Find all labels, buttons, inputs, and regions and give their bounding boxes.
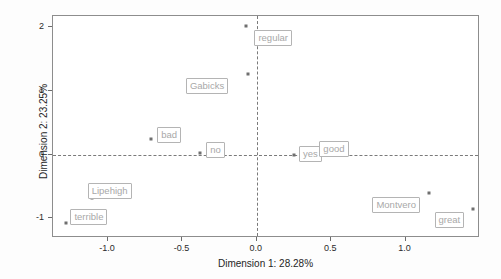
point-label: no	[206, 142, 225, 158]
scatter-plot-figure: regularGabicksbadnoyesgoodLipehighterrib…	[0, 0, 501, 279]
point-label: terrible	[70, 209, 107, 225]
y-tick-label: 2	[39, 21, 44, 31]
data-point	[428, 191, 431, 194]
point-label: bad	[157, 127, 181, 143]
point-label: Lipehigh	[88, 183, 132, 199]
x-tick-mark	[330, 237, 331, 241]
x-tick-label: 1.0	[398, 243, 411, 253]
data-point	[150, 137, 153, 140]
y-tick-mark	[48, 26, 52, 27]
y-tick-mark	[48, 90, 52, 91]
reference-line-vertical	[257, 16, 258, 236]
x-tick-mark	[181, 237, 182, 241]
y-axis-title: Dimension 2: 23.25%	[38, 37, 49, 227]
point-label: good	[319, 141, 348, 157]
x-tick-mark	[405, 237, 406, 241]
x-axis-title: Dimension 1: 28.28%	[52, 258, 479, 269]
y-tick-mark	[48, 217, 52, 218]
data-point	[471, 207, 474, 210]
x-tick-label: 0.5	[324, 243, 337, 253]
point-label: regular	[254, 30, 292, 46]
data-point	[199, 152, 202, 155]
x-tick-label: -0.5	[174, 243, 190, 253]
reference-line-horizontal	[53, 155, 478, 156]
x-tick-mark	[256, 237, 257, 241]
plot-area: regularGabicksbadnoyesgoodLipehighterrib…	[52, 15, 479, 237]
data-point	[65, 222, 68, 225]
data-point	[293, 154, 296, 157]
x-tick-mark	[107, 237, 108, 241]
point-label: Montvero	[372, 197, 420, 213]
point-label: great	[435, 212, 465, 228]
data-point	[245, 25, 248, 28]
x-tick-label: 0.0	[250, 243, 263, 253]
data-point	[246, 72, 249, 75]
point-label: Gabicks	[186, 78, 228, 94]
x-tick-label: -1.0	[99, 243, 115, 253]
y-tick-mark	[48, 154, 52, 155]
